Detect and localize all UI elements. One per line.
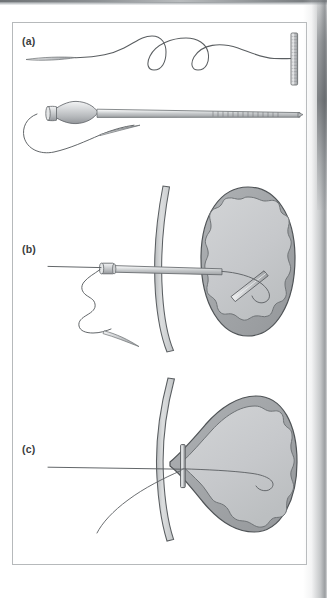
needle-hub-a — [50, 101, 98, 123]
suture-bevel-tail-b — [103, 331, 139, 347]
stomach-inner-c — [181, 406, 294, 527]
needle-shaft-a — [97, 109, 300, 117]
needle-hub-b — [100, 263, 116, 274]
panel-label-a: (a) — [22, 35, 35, 47]
panel-label-b: (b) — [22, 243, 36, 255]
t-bar-anchor-a — [291, 33, 298, 85]
figure-illustration — [0, 0, 327, 598]
suture-zigzag-b — [79, 270, 111, 333]
needle-tip-a — [298, 112, 303, 117]
hub-end-cap-a — [46, 106, 50, 120]
seated-t-bar-c — [181, 445, 186, 488]
needle-tail-a — [100, 125, 140, 135]
abdominal-wall-c — [156, 378, 174, 541]
suture-thread-a — [76, 36, 292, 70]
suture-tail-a — [26, 57, 76, 60]
stomach-inner-b — [205, 197, 291, 320]
panel-a-illustration — [24, 33, 303, 153]
panel-c-illustration — [48, 378, 297, 541]
panel-label-c: (c) — [22, 443, 35, 455]
panel-b-illustration — [48, 186, 295, 352]
suture-straight-b — [48, 266, 101, 267]
